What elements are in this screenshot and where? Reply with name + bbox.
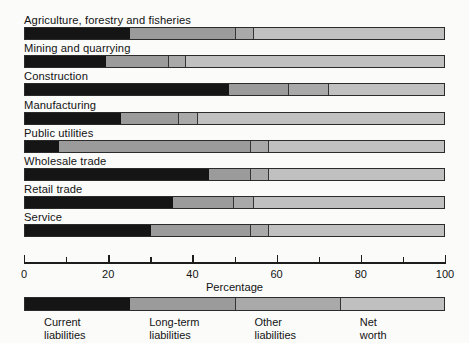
bar-segment xyxy=(25,197,173,208)
x-axis: 020406080100 Percentage xyxy=(0,262,469,288)
stacked-bar xyxy=(24,196,445,209)
bar-segment xyxy=(269,169,445,180)
bar-category-label: Mining and quarrying xyxy=(24,42,130,54)
stacked-bar xyxy=(24,140,445,153)
bar-category-label: Manufacturing xyxy=(24,99,96,111)
bar-segment xyxy=(251,225,269,236)
x-axis-major-tick xyxy=(24,255,25,263)
bar-segment xyxy=(25,84,229,95)
x-axis-minor-tick xyxy=(66,257,67,263)
bar-segment xyxy=(59,141,251,152)
bar-segment xyxy=(25,169,209,180)
bar-segment xyxy=(25,225,151,236)
legend-label: Net worth xyxy=(360,316,387,341)
bar-segment xyxy=(25,113,121,124)
bar-segment xyxy=(229,84,289,95)
bar-category-label: Agriculture, forestry and fisheries xyxy=(24,14,191,26)
bar-segment xyxy=(234,197,254,208)
stacked-bar xyxy=(24,168,445,181)
bar-segment xyxy=(25,141,59,152)
stacked-bar xyxy=(24,83,445,96)
bar-segment xyxy=(209,169,251,180)
chart-bar-row: Mining and quarrying xyxy=(0,42,469,70)
stacked-bar xyxy=(24,55,445,68)
bar-category-label: Construction xyxy=(24,70,88,82)
x-axis-minor-tick xyxy=(403,257,404,263)
bar-segment xyxy=(121,113,179,124)
legend-label: Other liabilities xyxy=(255,316,297,341)
bar-segment xyxy=(198,113,445,124)
x-axis-tick-label: 60 xyxy=(270,268,282,280)
x-axis-tick-label: 20 xyxy=(102,268,114,280)
x-axis-minor-tick xyxy=(150,257,151,263)
chart-bar-row: Wholesale trade xyxy=(0,155,469,183)
bar-segment xyxy=(329,84,445,95)
legend-label: Current liabilities xyxy=(44,316,86,341)
x-axis-title: Percentage xyxy=(0,281,469,293)
bar-segment xyxy=(289,84,329,95)
legend-label: Long-term liabilities xyxy=(149,316,199,341)
bar-category-label: Public utilities xyxy=(24,127,93,139)
chart-bar-row: Construction xyxy=(0,70,469,98)
bar-segment xyxy=(269,141,445,152)
stacked-bar xyxy=(24,112,445,125)
chart-bar-row: Service xyxy=(0,211,469,239)
chart-legend: Current liabilitiesLong-term liabilities… xyxy=(0,297,469,343)
legend-swatch xyxy=(25,298,130,310)
chart-bar-row: Retail trade xyxy=(0,183,469,211)
bar-segment xyxy=(186,56,445,67)
bar-segment xyxy=(251,169,269,180)
bar-segment xyxy=(25,28,130,39)
x-axis-major-tick xyxy=(445,255,446,263)
bar-segment xyxy=(179,113,198,124)
bar-segment xyxy=(269,225,445,236)
legend-color-bar xyxy=(24,297,445,311)
x-axis-major-tick xyxy=(192,255,193,263)
bar-segment xyxy=(151,225,251,236)
x-axis-tick-label: 40 xyxy=(186,268,198,280)
bar-segment xyxy=(254,197,445,208)
bar-segment xyxy=(169,56,186,67)
x-axis-minor-tick xyxy=(319,257,320,263)
stacked-bar-chart: Agriculture, forestry and fisheriesMinin… xyxy=(0,0,469,343)
bar-segment xyxy=(130,28,235,39)
x-axis-tick-label: 0 xyxy=(21,268,27,280)
bar-segment xyxy=(106,56,169,67)
bar-category-label: Service xyxy=(24,211,62,223)
x-axis-tick-label: 100 xyxy=(436,268,454,280)
stacked-bar xyxy=(24,224,445,237)
chart-bar-row: Public utilities xyxy=(0,127,469,155)
chart-bar-row: Manufacturing xyxy=(0,99,469,127)
chart-bar-row: Agriculture, forestry and fisheries xyxy=(0,14,469,42)
legend-swatch xyxy=(236,298,341,310)
x-axis-major-tick xyxy=(108,255,109,263)
legend-swatch xyxy=(341,298,445,310)
bar-category-label: Wholesale trade xyxy=(24,155,106,167)
legend-swatch xyxy=(130,298,235,310)
x-axis-major-tick xyxy=(277,255,278,263)
bar-segment xyxy=(25,56,106,67)
bar-segment xyxy=(236,28,255,39)
x-axis-minor-tick xyxy=(235,257,236,263)
bar-segment xyxy=(251,141,269,152)
x-axis-major-tick xyxy=(361,255,362,263)
plot-area: Agriculture, forestry and fisheriesMinin… xyxy=(0,0,469,262)
bar-category-label: Retail trade xyxy=(24,183,82,195)
stacked-bar xyxy=(24,27,445,40)
x-axis-tick-label: 80 xyxy=(355,268,367,280)
bar-segment xyxy=(173,197,234,208)
bar-segment xyxy=(254,28,445,39)
